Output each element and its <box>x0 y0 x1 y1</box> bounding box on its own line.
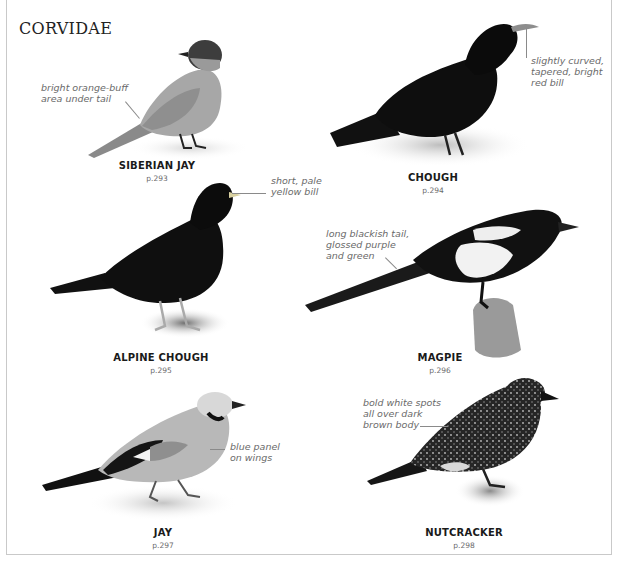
nutcracker-illustration <box>365 373 565 508</box>
magpie-annotation: long blackish tail, glossed purple and g… <box>326 228 409 261</box>
chough-illustration <box>325 15 545 165</box>
chough-page-ref: p.294 <box>422 186 443 195</box>
alpine-chough-illustration <box>45 178 245 343</box>
jay-name: JAY <box>154 527 172 538</box>
alpine-chough-annotation: short, pale yellow bill <box>271 175 322 197</box>
jay-leader-line <box>210 449 225 450</box>
nutcracker-leader-line <box>420 426 448 427</box>
magpie-illustration <box>303 200 583 360</box>
magpie-name: MAGPIE <box>418 352 463 363</box>
chough-name: CHOUGH <box>408 172 458 183</box>
siberian-jay-name: SIBERIAN JAY <box>119 160 196 171</box>
alpine-chough-page-ref: p.295 <box>150 366 171 375</box>
nutcracker-page-ref: p.298 <box>453 541 474 550</box>
alpine-chough-name: ALPINE CHOUGH <box>113 352 208 363</box>
chough-annotation: slightly curved, tapered, bright red bil… <box>531 55 604 88</box>
nutcracker-name: NUTCRACKER <box>425 527 503 538</box>
jay-annotation: blue panel on wings <box>230 441 280 463</box>
jay-page-ref: p.297 <box>152 541 173 550</box>
jay-illustration <box>38 385 253 520</box>
chough-leader-line <box>526 28 527 58</box>
alpine-chough-leader-line <box>232 193 266 194</box>
siberian-jay-annotation: bright orange-buff area under tail <box>41 82 128 104</box>
